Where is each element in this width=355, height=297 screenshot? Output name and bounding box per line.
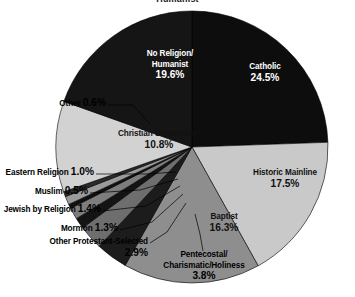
slice-label-no-religion: No Religion/ Humanist 19.6% [120, 49, 220, 81]
slice-label-eastern-religion: Eastern Religion 1.0% [0, 167, 94, 179]
slice-label-baptist-name: Baptist [195, 212, 253, 223]
slice-label-pentecostal-name: Pentecostal/ [140, 250, 268, 261]
slice-label-christian-unspecified-value: 10.8% [101, 140, 217, 151]
chart-page: Humanist Catholic 24.5% No Religion/ Hum… [0, 0, 355, 297]
slice-label-historic-mainline: Historic Mainline 17.5% [233, 168, 337, 189]
slice-label-christian-unspecified: Christian Unspecified 10.8% [101, 129, 217, 150]
slice-label-muslim-value: 0.5% [65, 185, 88, 196]
slice-label-jewish-by-religion: Jewish by Religion 1.4% [0, 204, 101, 216]
slice-label-muslim: Muslim 0.5% [0, 186, 88, 198]
slice-label-pentecostal-value: 3.8% [140, 271, 268, 282]
slice-label-mormon-value: 1.3% [95, 222, 118, 233]
slice-label-jewish-by-religion-value: 1.4% [78, 203, 101, 214]
slice-label-eastern-religion-name: Eastern Religion [6, 168, 69, 177]
slice-label-pentecostal: Pentecostal/ Charismatic/Holiness 3.8% [140, 250, 268, 282]
slice-label-mormon: Mormon 1.3% [20, 223, 118, 235]
slice-label-catholic-name: Catholic [225, 62, 305, 73]
slice-label-historic-mainline-name: Historic Mainline [233, 168, 337, 179]
slice-label-muslim-name: Muslim [35, 187, 63, 196]
slice-label-eastern-religion-value: 1.0% [71, 166, 94, 177]
slice-label-other-name: Other [59, 99, 80, 108]
slice-label-jewish-by-religion-name: Jewish by Religion [4, 205, 76, 214]
slice-label-other: Other 0.6% [28, 98, 106, 110]
slice-label-other-value: 0.6% [83, 97, 106, 108]
slice-label-catholic: Catholic 24.5% [225, 62, 305, 83]
slice-label-baptist: Baptist 16.3% [195, 212, 253, 233]
slice-label-other-protestant-name: Other Protestant-Selected [8, 237, 148, 248]
slice-label-no-religion-name: No Religion/ [120, 49, 220, 60]
slice-label-other-protestant: Other Protestant-Selected 2.9% [8, 237, 148, 258]
slice-label-christian-unspecified-name: Christian Unspecified [101, 129, 217, 140]
slice-label-catholic-value: 24.5% [225, 73, 305, 84]
slice-label-baptist-value: 16.3% [195, 223, 253, 234]
slice-label-no-religion-value: 19.6% [120, 70, 220, 81]
slice-label-mormon-name: Mormon [61, 224, 93, 233]
slice-label-other-protestant-value: 2.9% [8, 248, 148, 259]
slice-label-historic-mainline-value: 17.5% [233, 179, 337, 190]
